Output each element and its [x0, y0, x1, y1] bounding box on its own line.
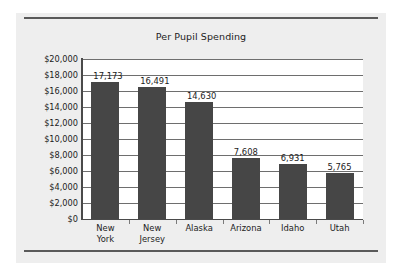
category-label-line: Arizona — [223, 223, 270, 234]
bar-series — [82, 59, 363, 219]
panel-top-rule — [24, 17, 378, 19]
category-label-line: Alaska — [176, 223, 223, 234]
bar-value-label: 6,931 — [281, 153, 305, 163]
category-label-line: New — [129, 223, 176, 234]
x-axis-category-label: Idaho — [269, 223, 316, 234]
category-label-line: New — [82, 223, 129, 234]
bar[interactable] — [185, 102, 213, 219]
bar[interactable] — [138, 87, 166, 219]
chart-title: Per Pupil Spending — [16, 31, 386, 42]
y-axis-tick-label: $18,000 — [8, 70, 78, 80]
x-axis-category-label: Arizona — [223, 223, 270, 234]
y-axis-tick-label: $4,000 — [8, 182, 78, 192]
bar-value-label: 5,765 — [328, 162, 352, 172]
category-label-line: York — [82, 234, 129, 245]
bar-value-label: 17,173 — [93, 71, 122, 81]
chart-figure: Per Pupil Spending $20,000$18,000$16,000… — [0, 0, 401, 278]
category-label-line: Jersey — [129, 234, 176, 245]
bar[interactable] — [279, 164, 307, 219]
panel-bottom-rule — [24, 250, 378, 252]
bar-value-label: 14,630 — [187, 91, 216, 101]
x-axis-tick — [363, 220, 364, 224]
x-axis-category-label: Alaska — [176, 223, 223, 234]
y-axis-tick-label: $12,000 — [8, 118, 78, 128]
y-axis-tick-labels: $20,000$18,000$16,000$14,000$12,000$10,0… — [4, 59, 78, 219]
bar[interactable] — [232, 158, 260, 219]
y-axis-tick-label: $8,000 — [8, 150, 78, 160]
y-axis-tick-label: $10,000 — [8, 134, 78, 144]
x-axis-category-label: NewJersey — [129, 223, 176, 244]
bar-value-label: 16,491 — [140, 76, 169, 86]
x-axis-category-label: NewYork — [82, 223, 129, 244]
x-axis-category-label: Utah — [316, 223, 363, 234]
y-axis-tick-label: $20,000 — [8, 54, 78, 64]
bar[interactable] — [326, 173, 354, 219]
y-axis-tick-label: $6,000 — [8, 166, 78, 176]
bar[interactable] — [91, 82, 119, 219]
y-axis-tick-label: $16,000 — [8, 86, 78, 96]
bar-value-label: 7,608 — [234, 147, 258, 157]
y-axis-tick-label: $2,000 — [8, 198, 78, 208]
y-axis-tick-label: $14,000 — [8, 102, 78, 112]
y-axis-tick-label: $0 — [8, 214, 78, 224]
category-label-line: Idaho — [269, 223, 316, 234]
category-label-line: Utah — [316, 223, 363, 234]
